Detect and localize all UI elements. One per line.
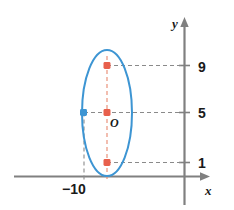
ellipse-figure: 9 5 1 −10 y x O xyxy=(0,0,234,210)
point-center xyxy=(104,109,111,116)
y-tick-label-1: 1 xyxy=(198,156,206,170)
axes-group xyxy=(14,17,210,205)
y-tick-label-5: 5 xyxy=(198,106,206,120)
y-axis-label: y xyxy=(172,17,178,30)
center-point-label: O xyxy=(110,117,119,129)
guide-lines-group xyxy=(84,56,182,182)
point-top-focus xyxy=(104,62,111,69)
point-left-vertex xyxy=(80,109,87,116)
x-axis-arrowhead xyxy=(200,172,210,180)
y-tick-label-9: 9 xyxy=(198,60,206,74)
marked-points-group xyxy=(80,62,111,166)
x-axis-label: x xyxy=(205,184,212,197)
x-tick-label-neg-ten: −10 xyxy=(62,182,86,196)
y-axis-arrowhead xyxy=(180,17,188,27)
point-bottom-focus xyxy=(104,159,111,166)
